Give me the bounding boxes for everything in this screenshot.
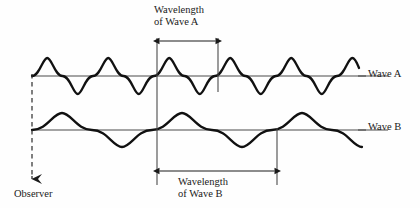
wavelength-a-label-line2: of Wave A: [154, 16, 204, 28]
wavelength-b-label-line2: of Wave B: [178, 188, 228, 200]
observer-label: Observer: [14, 188, 52, 200]
wave-a-label: Wave A: [368, 68, 401, 80]
wavelength-b-label-line1: Wavelength: [178, 176, 228, 188]
wavelength-a-label: Wavelength of Wave A: [154, 4, 204, 28]
wavelength-b-label: Wavelength of Wave B: [178, 176, 228, 200]
wave-b-label: Wave B: [368, 121, 401, 133]
wave-diagram-figure: Wavelength of Wave A Wavelength of Wave …: [0, 0, 420, 208]
wavelength-a-label-line1: Wavelength: [154, 4, 204, 16]
